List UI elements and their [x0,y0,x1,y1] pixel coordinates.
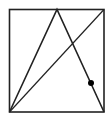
diagonal-line [10,10,105,113]
marked-point [88,80,94,86]
geometry-diagram [0,0,107,119]
